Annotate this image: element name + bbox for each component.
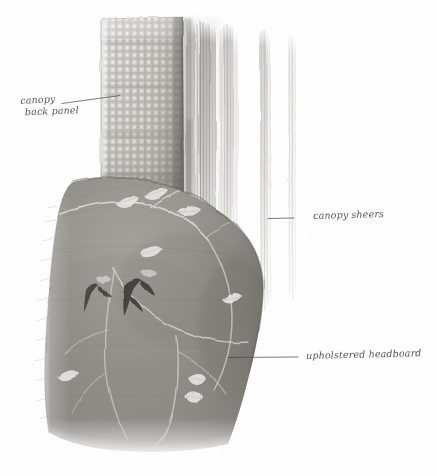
leader-line-upholstered-headboard	[228, 357, 298, 358]
sketch-canvas: canopy back panel canopy sheers upholste…	[0, 0, 437, 476]
annotation-label-canopy-back-panel: canopy back panel	[20, 92, 79, 119]
annotation-text-line-2: back panel	[25, 104, 79, 118]
pencil-sketch-illustration	[0, 0, 437, 476]
leader-line-canopy-sheers	[268, 218, 294, 219]
annotation-text-line-1: canopy sheers	[313, 208, 384, 221]
annotation-text-line-1: canopy	[20, 93, 56, 106]
annotation-text-line-1: upholstered headboard	[306, 347, 422, 361]
annotation-label-canopy-sheers: canopy sheers	[313, 208, 384, 222]
